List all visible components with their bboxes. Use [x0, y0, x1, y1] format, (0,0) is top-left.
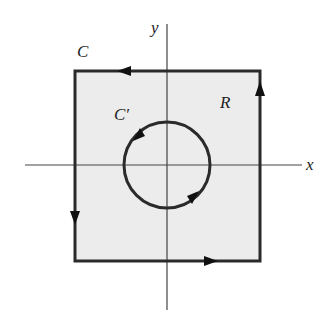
y-axis-label: y: [149, 18, 159, 37]
outer-curve-label: C: [77, 42, 89, 61]
region-label: R: [219, 93, 231, 112]
inner-curve-label: C′: [114, 105, 129, 124]
diagram: y x C C′ R: [0, 0, 336, 329]
x-axis-label: x: [305, 155, 314, 174]
